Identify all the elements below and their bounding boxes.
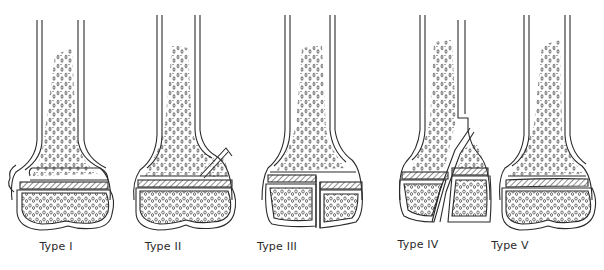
- bone-type-2: [134, 15, 236, 230]
- bone-type-3: [262, 15, 362, 228]
- label-type-2: Type II: [145, 240, 182, 253]
- label-type-1: Type I: [39, 240, 72, 253]
- bone-type-5: [500, 15, 596, 230]
- bone-type-4: [400, 15, 492, 222]
- label-type-5: Type V: [491, 239, 529, 252]
- label-type-4: Type IV: [398, 238, 439, 251]
- fracture-diagram: [0, 0, 604, 240]
- label-type-3: Type III: [257, 240, 297, 253]
- bone-type-1: [9, 20, 114, 230]
